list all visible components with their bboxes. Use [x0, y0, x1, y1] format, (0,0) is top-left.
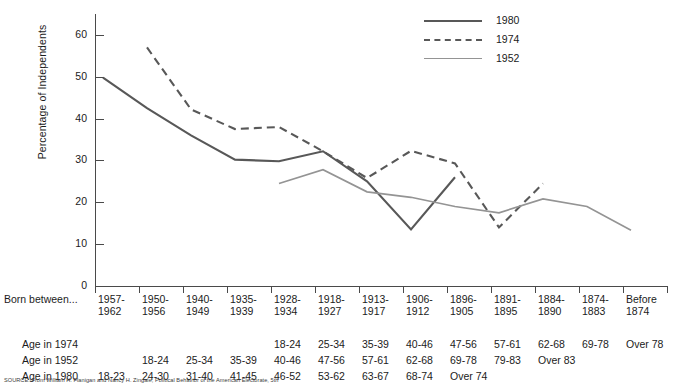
age-in-1980-cell: Over 74	[450, 370, 487, 382]
row-label-age-1974: Age in 1974	[22, 338, 78, 350]
x-tick	[359, 286, 360, 293]
born-between-cell: Before1874	[626, 293, 657, 317]
age-in-1952-cell: 25-34	[186, 354, 213, 366]
x-tick	[403, 286, 404, 293]
x-tick	[271, 286, 272, 293]
age-in-1980-cell: 63-67	[362, 370, 389, 382]
born-between-cell: 1935-1939	[230, 293, 257, 317]
series-lines	[95, 14, 667, 286]
legend-label: 1980	[496, 14, 519, 26]
legend-swatch-1952	[424, 58, 482, 59]
age-in-1974-cell: 47-56	[450, 338, 477, 350]
legend-swatch-1980	[424, 20, 482, 22]
born-between-cell: 1874-1883	[582, 293, 609, 317]
x-tick	[667, 286, 668, 293]
age-in-1952-cell: 47-56	[318, 354, 345, 366]
age-in-1974-cell: 35-39	[362, 338, 389, 350]
legend-label: 1974	[496, 33, 519, 45]
age-in-1952-cell: 35-39	[230, 354, 257, 366]
source-note: SOURCE: From William H. Flanigan and Nan…	[4, 377, 278, 384]
legend-swatch-1974	[424, 39, 482, 41]
x-axis-line	[95, 286, 667, 287]
x-tick	[447, 286, 448, 293]
age-in-1952-cell: 69-78	[450, 354, 477, 366]
born-between-cell: 1913-1917	[362, 293, 389, 317]
y-tick-label: 10	[55, 238, 87, 249]
x-tick	[579, 286, 580, 293]
y-tick-label: 40	[55, 113, 87, 124]
y-tick-label: 30	[55, 154, 87, 165]
born-between-cell: 1891-1895	[494, 293, 521, 317]
x-tick	[227, 286, 228, 293]
y-tick-label: 20	[55, 196, 87, 207]
born-between-cell: 1950-1956	[142, 293, 169, 317]
x-tick	[623, 286, 624, 293]
x-tick	[139, 286, 140, 293]
age-in-1974-cell: Over 78	[626, 338, 663, 350]
age-in-1952-cell: 40-46	[274, 354, 301, 366]
y-tick-label: 60	[55, 29, 87, 40]
row-label-born: Born between...	[4, 293, 78, 305]
born-between-cell: 1896-1905	[450, 293, 477, 317]
y-axis-title: Percentage of Independents	[36, 2, 48, 182]
x-tick	[491, 286, 492, 293]
age-in-1974-cell: 40-46	[406, 338, 433, 350]
age-in-1974-cell: 18-24	[274, 338, 301, 350]
age-in-1980-cell: 68-74	[406, 370, 433, 382]
age-in-1952-cell: 57-61	[362, 354, 389, 366]
age-in-1974-cell: 62-68	[538, 338, 565, 350]
x-tick	[315, 286, 316, 293]
y-tick-label: 50	[55, 71, 87, 82]
chart-figure: Percentage of Independents 6050403020100…	[0, 0, 674, 384]
legend-label: 1952	[496, 52, 519, 64]
x-tick	[183, 286, 184, 293]
series-line-1980	[103, 78, 455, 230]
y-tick-label: 0	[55, 280, 87, 291]
age-in-1980-cell: 53-62	[318, 370, 345, 382]
y-tick	[95, 286, 104, 287]
age-in-1952-cell: Over 83	[538, 354, 575, 366]
born-between-cell: 1940-1949	[186, 293, 213, 317]
age-in-1974-cell: 57-61	[494, 338, 521, 350]
age-in-1974-cell: 25-34	[318, 338, 345, 350]
age-in-1952-cell: 62-68	[406, 354, 433, 366]
row-label-age-1952: Age in 1952	[22, 354, 78, 366]
series-line-1974	[147, 47, 543, 227]
born-between-cell: 1906-1912	[406, 293, 433, 317]
age-in-1952-cell: 18-24	[142, 354, 169, 366]
born-between-cell: 1957-1962	[98, 293, 125, 317]
x-tick	[535, 286, 536, 293]
plot-area	[95, 14, 667, 286]
born-between-cell: 1928-1934	[274, 293, 301, 317]
born-between-cell: 1884-1890	[538, 293, 565, 317]
x-tick	[95, 286, 96, 293]
age-in-1952-cell: 79-83	[494, 354, 521, 366]
born-between-cell: 1918-1927	[318, 293, 345, 317]
age-in-1974-cell: 69-78	[582, 338, 609, 350]
